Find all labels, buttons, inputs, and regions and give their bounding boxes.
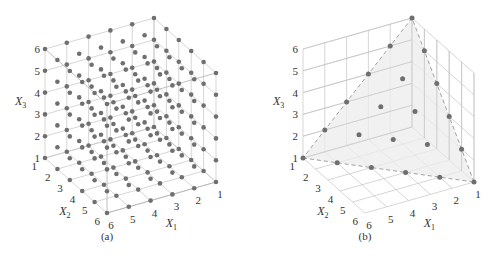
data-point [80, 80, 85, 85]
data-point [214, 114, 219, 119]
floor-grid-line [67, 152, 129, 207]
data-point [167, 55, 172, 60]
data-point [114, 128, 119, 133]
x2-tick-label: 6 [353, 215, 359, 227]
data-point [136, 122, 141, 127]
data-point [136, 187, 141, 192]
simplex-plane [303, 18, 474, 182]
data-point [86, 122, 91, 127]
data-point [65, 41, 70, 46]
data-point [121, 126, 126, 131]
data-point [68, 156, 73, 161]
data-point [148, 177, 153, 182]
x3-axis-label: X3 [14, 94, 26, 110]
data-point [92, 91, 97, 96]
data-point [130, 66, 135, 71]
right-wall-grid-line [154, 127, 216, 182]
data-point [170, 192, 175, 197]
x2-tick-label: 3 [57, 182, 63, 194]
data-point [89, 63, 94, 68]
floor-grid-line [70, 149, 179, 180]
data-point [145, 127, 150, 132]
data-point [180, 110, 185, 115]
data-point [102, 139, 107, 144]
data-point [55, 123, 60, 128]
x2-tick-label: 1 [290, 160, 296, 172]
data-point [99, 111, 104, 116]
x1-tick-label: 5 [130, 213, 136, 225]
data-point [158, 159, 163, 164]
data-point [152, 59, 157, 64]
data-point [192, 77, 197, 82]
data-point [121, 39, 126, 44]
data-point [145, 83, 150, 88]
data-point [89, 172, 94, 177]
data-point [65, 84, 70, 89]
data-point [55, 58, 60, 63]
x3-tick-label: 3 [293, 108, 299, 120]
data-point [214, 71, 219, 76]
x1-tick-label: 4 [410, 207, 416, 219]
data-point [180, 66, 185, 71]
data-point [152, 16, 157, 21]
data-point [65, 62, 70, 67]
data-point [388, 44, 393, 49]
data-point [43, 69, 48, 74]
data-point [114, 106, 119, 111]
x2-tick-label: 5 [82, 204, 88, 216]
data-point [105, 145, 110, 150]
data-point [65, 106, 70, 111]
x1-axis-label: X1 [423, 216, 435, 232]
data-point [177, 81, 182, 86]
data-point [164, 27, 169, 32]
data-point [148, 133, 153, 138]
data-point [108, 72, 113, 77]
data-point [391, 137, 396, 142]
data-point [177, 125, 182, 130]
cube-edge [107, 73, 216, 104]
data-point [55, 167, 60, 172]
data-point [335, 160, 340, 165]
data-point [155, 153, 160, 158]
data-point [133, 50, 138, 55]
data-point [92, 178, 97, 183]
x1-axis-label: X1 [165, 216, 177, 232]
data-point [177, 147, 182, 152]
data-point [142, 98, 147, 103]
caption-a: (a) [101, 230, 114, 243]
floor-grid-line [132, 133, 194, 188]
data-point [124, 155, 129, 160]
data-point [180, 153, 185, 158]
right-wall-grid-line [154, 105, 216, 160]
x2-tick-label: 4 [70, 193, 76, 205]
data-point [472, 180, 477, 185]
data-point [77, 117, 82, 122]
data-point [201, 82, 206, 87]
data-point [124, 67, 129, 72]
data-point [124, 111, 129, 116]
right-wall-grid-line [154, 62, 216, 117]
data-point [108, 28, 113, 33]
data-point [344, 100, 349, 105]
data-point [77, 73, 82, 78]
data-point [167, 77, 172, 82]
data-point [43, 47, 48, 52]
data-point [167, 99, 172, 104]
data-point [43, 112, 48, 117]
cube-edge [45, 49, 107, 104]
data-point [102, 117, 107, 122]
data-point [177, 60, 182, 65]
data-point [80, 102, 85, 107]
data-point [86, 56, 91, 61]
panel-b-simplex-plot: 123456123456123456X3X2X1 [272, 16, 481, 232]
data-point [378, 104, 383, 109]
x3-tick-label: 2 [35, 130, 41, 142]
x2-tick-label: 6 [95, 215, 101, 227]
data-point [369, 165, 374, 170]
data-point [77, 52, 82, 57]
data-point [301, 156, 306, 161]
data-point [142, 120, 147, 125]
x1-tick-label: 3 [432, 200, 438, 212]
data-point [111, 165, 116, 170]
x2-axis-label: X2 [316, 204, 328, 220]
